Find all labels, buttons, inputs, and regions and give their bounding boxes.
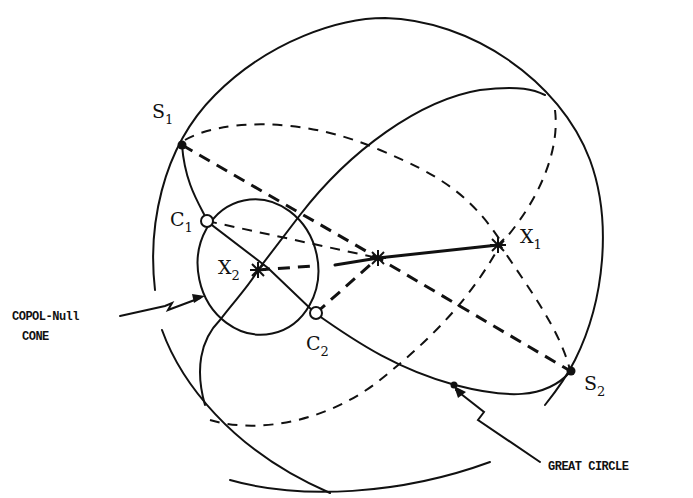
annotation-copol-null: COPOL-Null <box>12 310 79 324</box>
copol-arrowhead <box>192 294 205 303</box>
s2-point <box>567 367 576 376</box>
label-s2: S2 <box>584 372 605 399</box>
poincare-sphere-diagram: S1 C1 X2 C2 X1 S2 COPOL-Null CONE GREAT … <box>0 0 693 498</box>
back-dashed-arc-upper <box>185 124 500 240</box>
great-circle-pointer-arrow <box>456 390 540 462</box>
sphere-outline-bottom <box>230 462 490 492</box>
x1-star <box>490 237 506 253</box>
sphere-outline-lower-left <box>162 330 330 493</box>
label-x1: X1 <box>520 225 542 252</box>
label-x2: X2 <box>218 256 240 283</box>
c1-point <box>201 215 213 227</box>
label-s1: S1 <box>152 100 173 127</box>
label-c1: C1 <box>170 208 193 235</box>
c1-to-center <box>207 221 378 258</box>
s1-point <box>178 141 187 150</box>
annotation-great-circle: GREAT CIRCLE <box>548 460 629 474</box>
x2-star <box>250 262 266 278</box>
label-c2: C2 <box>306 332 329 359</box>
c2-to-center <box>316 258 378 313</box>
c2-point <box>310 307 322 319</box>
annotation-cone: CONE <box>22 330 49 344</box>
back-dashed-arc-lower <box>210 245 500 426</box>
great-circle <box>182 145 570 394</box>
copol-pointer-arrow <box>120 298 200 316</box>
center-star <box>370 250 386 266</box>
